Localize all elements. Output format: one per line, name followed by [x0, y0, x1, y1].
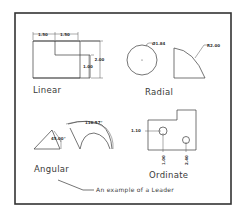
linear-section: 1.50 1.50 2.00 1.00 Linear: [33, 32, 105, 96]
ordinate-dim-vertical-right: 2.40: [184, 155, 189, 165]
linear-step-shape: [33, 41, 100, 78]
ordinate-label: Ordinate: [149, 170, 188, 180]
circle-center-mark: [141, 59, 142, 60]
drawing-frame: [15, 13, 231, 204]
angular-dim-small: 45.00°: [51, 136, 66, 141]
leader-line: [58, 180, 94, 190]
radial-section: Ø1.84 R2.00 Radial: [127, 41, 220, 98]
angular-section: 45.00° 116.57° Angular: [34, 120, 113, 174]
leader-text: An example of a Leader: [96, 186, 174, 194]
dimension-drawing: 1.50 1.50 2.00 1.00 Linear Ø1.84 R2.00 R…: [0, 0, 245, 214]
linear-dim-right-outer: 2.00: [95, 57, 105, 62]
angular-dim-large: 116.57°: [85, 120, 102, 125]
ordinate-dim-horizontal: 1.10: [131, 128, 141, 133]
linear-label: Linear: [33, 85, 61, 95]
leader-section: An example of a Leader: [58, 180, 174, 194]
radial-quarter-arc: [174, 48, 205, 78]
ordinate-vertical-lines: [163, 133, 186, 152]
linear-dim-top-left: 1.50: [38, 32, 48, 37]
angular-inner-arc: [70, 128, 110, 149]
ordinate-section: 1.10 1.00 2.40 Ordinate: [131, 110, 196, 180]
radial-label: Radial: [145, 87, 173, 97]
linear-dim-right-inner: 1.00: [83, 64, 93, 69]
angular-label: Angular: [34, 164, 69, 174]
linear-dim-top-right: 1.50: [60, 32, 70, 37]
radial-dim-diameter: Ø1.84: [152, 41, 165, 46]
ordinate-dim-vertical-left: 1.00: [161, 155, 166, 165]
angular-outer-arc: [68, 121, 112, 149]
linear-outer-rect: [33, 41, 80, 78]
ordinate-shape: [148, 110, 196, 150]
radial-dim-radius: R2.00: [207, 43, 220, 48]
